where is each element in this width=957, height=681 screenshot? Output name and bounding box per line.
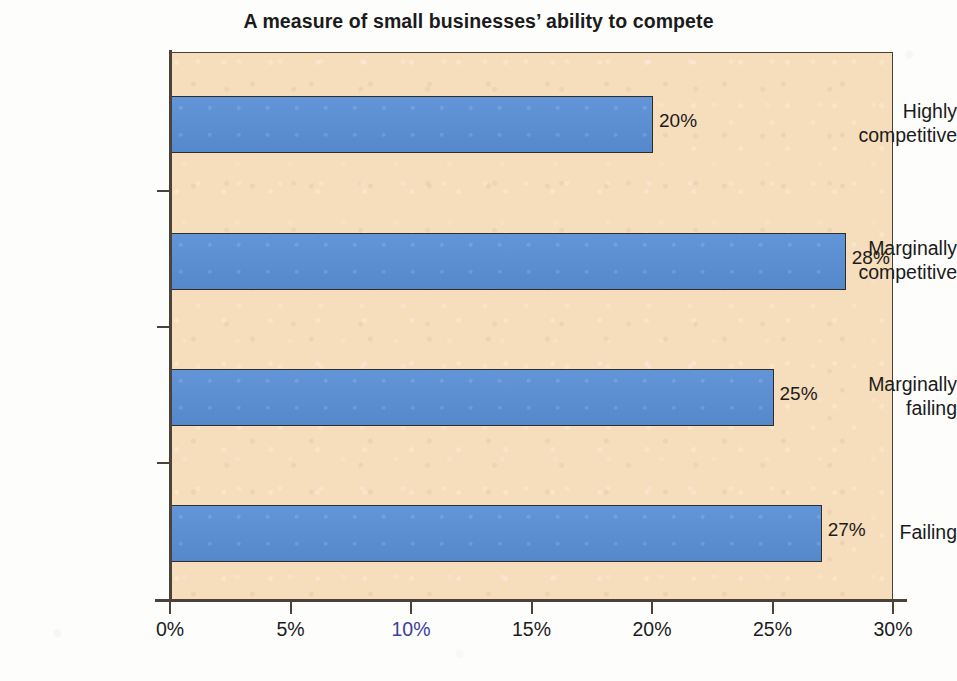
x-axis-label: 0% bbox=[156, 618, 184, 641]
x-axis-tick bbox=[410, 601, 412, 614]
category-label-marginally-failing: Marginally failing bbox=[799, 372, 957, 420]
bar-value-label-failing: 27% bbox=[828, 519, 866, 541]
x-axis-tick bbox=[772, 601, 774, 614]
y-axis-tick bbox=[157, 190, 170, 192]
x-axis-tick bbox=[892, 601, 894, 614]
x-axis-tick bbox=[169, 601, 171, 614]
x-axis-tick bbox=[531, 601, 533, 614]
bar-value-label-marginally-failing: 25% bbox=[780, 383, 818, 405]
x-axis-label: 15% bbox=[512, 618, 551, 641]
x-axis-label: 25% bbox=[753, 618, 792, 641]
x-axis-tick bbox=[290, 601, 292, 614]
category-label-line: failing bbox=[799, 396, 957, 420]
x-axis-tick bbox=[651, 601, 653, 614]
category-label-line: competitive bbox=[799, 123, 957, 147]
category-label-highly-competitive: Highly competitive bbox=[799, 99, 957, 147]
bar-value-label-marginally-competitive: 28% bbox=[852, 247, 890, 269]
plot-area bbox=[170, 52, 893, 600]
category-label-failing: Failing bbox=[799, 520, 957, 544]
category-label-line: Highly bbox=[799, 99, 957, 123]
x-axis-label: 30% bbox=[873, 618, 912, 641]
bar-highly-competitive[interactable] bbox=[171, 96, 653, 153]
chart-page: A measure of small businesses’ ability t… bbox=[0, 0, 957, 681]
bar-marginally-competitive[interactable] bbox=[171, 233, 846, 290]
x-axis-label: 5% bbox=[276, 618, 304, 641]
bar-failing[interactable] bbox=[171, 505, 822, 562]
bar-marginally-failing[interactable] bbox=[171, 369, 774, 426]
x-axis-label: 20% bbox=[632, 618, 671, 641]
y-axis-tick bbox=[157, 326, 170, 328]
bar-value-label-highly-competitive: 20% bbox=[659, 110, 697, 132]
x-axis-label: 10% bbox=[391, 618, 430, 641]
category-label-line: Failing bbox=[799, 520, 957, 544]
y-axis-tick bbox=[157, 462, 170, 464]
chart-title: A measure of small businesses’ ability t… bbox=[0, 10, 957, 33]
category-label-line: Marginally bbox=[799, 372, 957, 396]
